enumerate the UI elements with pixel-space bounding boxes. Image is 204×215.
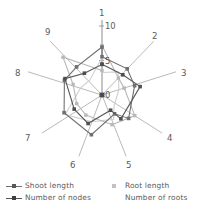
data-point <box>86 122 90 126</box>
data-point <box>110 123 113 126</box>
axis-label-7: 7 <box>25 133 30 143</box>
data-point <box>127 117 131 121</box>
radar-plot-area: 10 5 0 1 2 3 4 5 6 7 8 9 10 <box>0 0 204 178</box>
axis-label-6: 6 <box>70 160 75 170</box>
data-point <box>90 133 94 137</box>
data-point <box>125 67 129 71</box>
legend-column-left: Shoot length Number of nodes <box>6 180 91 204</box>
axis-label-2: 2 <box>152 31 157 41</box>
legend-item-shoot-length[interactable]: Shoot length <box>6 180 91 192</box>
radar-svg: 10 5 0 1 2 3 4 5 6 7 8 9 10 <box>0 0 204 178</box>
data-point <box>123 86 126 89</box>
axis-label-9: 9 <box>45 27 50 37</box>
spoke-6 <box>79 95 102 156</box>
radial-tick-0: 0 <box>105 90 110 100</box>
legend-marker-number-of-roots <box>106 193 122 203</box>
legend-column-right: Root length Number of roots <box>106 180 187 204</box>
data-point <box>62 111 66 115</box>
axis-label-5: 5 <box>126 160 131 170</box>
data-point <box>75 65 79 69</box>
data-point <box>117 76 120 79</box>
data-point <box>83 71 87 75</box>
legend-label-number-of-roots: Number of roots <box>125 193 187 203</box>
radar-center-hub <box>100 93 105 98</box>
axis-label-8: 8 <box>15 68 20 78</box>
data-point <box>138 85 142 89</box>
data-point <box>63 77 67 81</box>
data-point <box>100 69 103 72</box>
legend-label-root-length: Root length <box>125 181 169 191</box>
legend-item-number-of-roots[interactable]: Number of roots <box>106 192 187 204</box>
data-point <box>121 73 125 77</box>
axis-label-3: 3 <box>181 68 186 78</box>
legend-marker-number-of-nodes <box>6 193 22 203</box>
axis-label-4: 4 <box>167 133 172 143</box>
legend-marker-shoot-length <box>6 181 22 191</box>
data-point <box>75 102 78 105</box>
legend-marker-root-length <box>106 181 122 191</box>
data-point <box>100 45 104 49</box>
data-point <box>133 114 136 117</box>
data-point <box>71 83 74 86</box>
legend-item-root-length[interactable]: Root length <box>106 180 187 192</box>
legend-label-number-of-nodes: Number of nodes <box>25 193 91 203</box>
radar-chart-figure: 10 5 0 1 2 3 4 5 6 7 8 9 10 Shoot length <box>0 0 204 215</box>
data-point <box>119 117 123 121</box>
legend-label-shoot-length: Shoot length <box>25 181 74 191</box>
data-point <box>72 107 76 111</box>
axis-label-1: 1 <box>99 8 104 18</box>
data-point <box>84 113 87 116</box>
radial-tick-5: 5 <box>105 56 110 66</box>
data-point <box>100 55 104 59</box>
data-point <box>100 63 104 67</box>
data-point <box>133 84 137 88</box>
legend-item-number-of-nodes[interactable]: Number of nodes <box>6 192 91 204</box>
data-point <box>61 56 64 59</box>
chart-legend: Shoot length Number of nodes Root length… <box>0 180 204 214</box>
data-point <box>109 108 113 112</box>
